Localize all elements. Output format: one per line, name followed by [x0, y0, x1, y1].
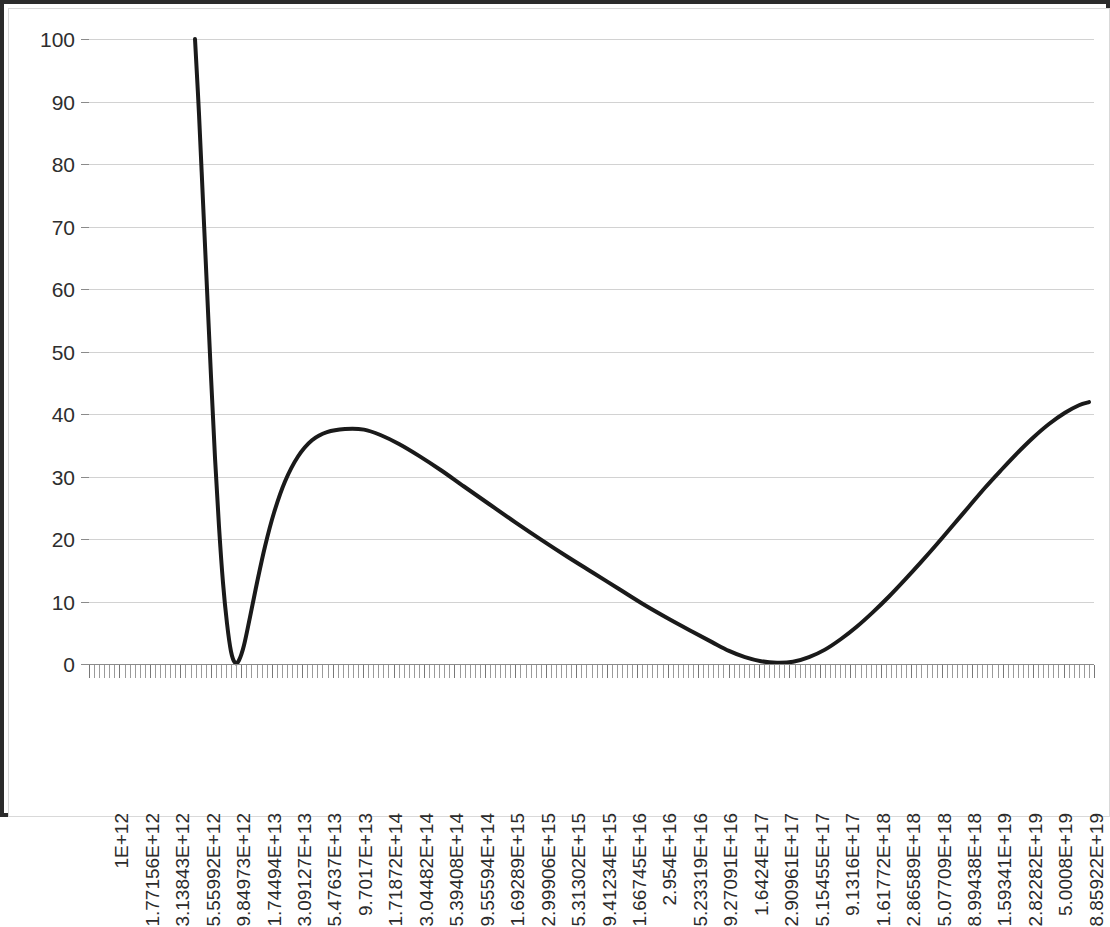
x-tick-127: [734, 665, 735, 678]
x-tick-42: [302, 665, 303, 678]
x-tick-15: [165, 665, 166, 678]
x-tick-190: [1053, 665, 1054, 678]
x-tick-2: [99, 665, 100, 678]
x-tick-3: [104, 665, 105, 678]
x-tick-139: [795, 665, 796, 678]
x-tick-18: [180, 665, 181, 678]
x-tick-19: [185, 665, 186, 678]
x-tick-26: [221, 665, 222, 678]
x-tick-128: [739, 665, 740, 678]
chart-plot-container: 0102030405060708090100 1E+121.77156E+123…: [8, 8, 1110, 817]
x-tick-71: [449, 665, 450, 678]
x-tick-136: [779, 665, 780, 678]
x-tick-55: [368, 665, 369, 678]
x-tick-183: [1018, 665, 1019, 678]
x-tick-label-23: 5.15455E+17: [812, 813, 834, 927]
x-tick-149: [845, 665, 846, 678]
x-tick-142: [810, 665, 811, 678]
x-tick-30: [241, 665, 242, 678]
x-tick-147: [835, 665, 836, 678]
x-tick-156: [881, 665, 882, 678]
x-tick-134: [769, 665, 770, 678]
y-tick-mark-30: [81, 477, 89, 478]
x-tick-21: [196, 665, 197, 678]
x-tick-50: [343, 665, 344, 678]
x-tick-188: [1043, 665, 1044, 678]
x-tick-108: [637, 665, 638, 678]
x-tick-65: [419, 665, 420, 678]
x-tick-64: [414, 665, 415, 678]
x-tick-label-30: 2.82282E+19: [1025, 813, 1047, 927]
x-tick-89: [541, 665, 542, 678]
x-tick-85: [520, 665, 521, 678]
x-tick-93: [561, 665, 562, 678]
x-tick-label-13: 1.69289E+15: [507, 813, 529, 927]
x-tick-196: [1084, 665, 1085, 678]
x-tick-41: [297, 665, 298, 678]
x-tick-135: [774, 665, 775, 678]
x-tick-61: [399, 665, 400, 678]
x-tick-171: [957, 665, 958, 678]
x-tick-12: [150, 665, 151, 678]
x-tick-114: [668, 665, 669, 678]
x-tick-195: [1079, 665, 1080, 678]
x-tick-44: [312, 665, 313, 678]
x-tick-180: [1003, 665, 1004, 678]
y-tick-label-50: 50: [52, 341, 75, 362]
x-tick-103: [612, 665, 613, 678]
y-axis: 0102030405060708090100: [9, 9, 89, 709]
x-tick-157: [886, 665, 887, 678]
y-tick-label-10: 10: [52, 591, 75, 612]
x-tick-label-25: 1.61772E+18: [873, 813, 895, 927]
x-tick-38: [282, 665, 283, 678]
x-tick-111: [652, 665, 653, 678]
x-tick-159: [896, 665, 897, 678]
x-tick-label-31: 5.0008E+19: [1055, 813, 1077, 916]
x-tick-172: [962, 665, 963, 678]
x-tick-78: [485, 665, 486, 678]
x-tick-46: [322, 665, 323, 678]
x-tick-label-10: 3.04482E+14: [416, 813, 438, 927]
y-tick-label-80: 80: [52, 154, 75, 175]
x-tick-24: [211, 665, 212, 678]
x-tick-label-15: 5.31302E+15: [568, 813, 590, 927]
x-tick-131: [754, 665, 755, 678]
x-tick-113: [663, 665, 664, 678]
y-tick-mark-10: [81, 602, 89, 603]
x-tick-119: [693, 665, 694, 678]
x-tick-107: [632, 665, 633, 678]
x-tick-63: [409, 665, 410, 678]
x-tick-10: [140, 665, 141, 678]
x-tick-166: [932, 665, 933, 678]
x-tick-43: [307, 665, 308, 678]
x-tick-13: [155, 665, 156, 678]
x-tick-label-22: 2.90961E+17: [781, 813, 803, 927]
x-tick-165: [927, 665, 928, 678]
x-tick-96: [576, 665, 577, 678]
y-tick-mark-100: [81, 39, 89, 40]
x-tick-label-2: 3.13843E+12: [172, 813, 194, 927]
x-tick-56: [373, 665, 374, 678]
x-tick-52: [353, 665, 354, 678]
x-tick-label-12: 9.55594E+14: [477, 813, 499, 927]
x-tick-69: [439, 665, 440, 678]
x-tick-184: [1023, 665, 1024, 678]
x-tick-179: [998, 665, 999, 678]
x-tick-98: [586, 665, 587, 678]
x-tick-0: [89, 665, 90, 678]
x-tick-label-16: 9.41234E+15: [599, 813, 621, 927]
x-tick-152: [861, 665, 862, 678]
x-tick-177: [987, 665, 988, 678]
x-axis-ticks: [89, 665, 1094, 679]
x-tick-121: [703, 665, 704, 678]
x-tick-187: [1038, 665, 1039, 678]
x-tick-175: [977, 665, 978, 678]
x-tick-122: [708, 665, 709, 678]
x-tick-label-29: 1.59341E+19: [994, 813, 1016, 927]
plot-area: [89, 39, 1094, 664]
x-tick-150: [850, 665, 851, 678]
x-tick-84: [515, 665, 516, 678]
x-tick-label-14: 2.99906E+15: [538, 813, 560, 927]
x-tick-118: [688, 665, 689, 678]
